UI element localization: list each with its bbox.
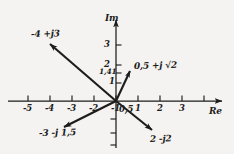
vector-label-minus4-plus-j3: -4 +j3 [31,29,60,39]
tick-label-re-minus2: -2 [89,104,98,113]
argand-diagram-canvas [0,0,234,154]
tick-label-re-3: 3 [179,104,185,113]
vector-label-0p5-plus-j-sqrt2: 0,5 +j √2 [134,61,177,71]
tick-label-re-1: 1 [135,104,141,113]
tick-label-re-0p5: 0,5 [119,105,133,114]
vector-0p5-plus-j-sqrt2 [116,71,130,101]
real-axis-label: Re [209,107,222,116]
vector-label-2-minus-j2: 2 -j2 [150,134,172,144]
imaginary-axis-label: Im [105,14,118,23]
tick-label-im-1: 1 [109,77,115,86]
vector-label-minus3-minus-j1p5: -3 -j 1,5 [39,128,76,138]
tick-label-im-1p41: 1,41 [99,68,116,76]
tick-label-re-minus4: -4 [45,104,54,113]
tick-label-re-minus5: -5 [23,104,32,113]
tick-label-re-2: 2 [157,104,163,113]
tick-label-re-minus3: -3 [67,104,76,113]
complex-plane-figure: Im Re -5 -4 -3 -2 -1 0,5 1 2 3 3 2 1,41 … [0,0,234,154]
tick-label-im-3: 3 [104,40,110,49]
